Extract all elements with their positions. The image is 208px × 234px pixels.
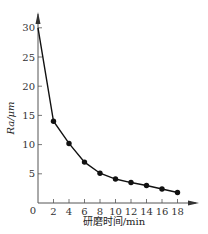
data-point [51, 119, 56, 124]
data-point [159, 186, 164, 191]
data-point [144, 183, 149, 188]
x-axis-ticks: 24681012141618 [50, 199, 184, 217]
line-chart: 51015202530 24681012141618 Ra/μm 研磨时间/mi… [0, 0, 208, 234]
data-point [82, 159, 87, 164]
data-point [66, 141, 71, 146]
y-tick-label: 10 [22, 139, 35, 150]
x-tick-label: 2 [50, 206, 56, 217]
data-point-markers [51, 119, 180, 196]
y-axis-arrow-icon [36, 12, 41, 24]
x-axis-title: 研磨时间/min [83, 215, 146, 227]
ra-series-line [38, 28, 178, 193]
y-tick-label: 5 [29, 168, 35, 179]
data-point [97, 171, 102, 176]
y-tick-label: 15 [22, 110, 35, 121]
y-axis-title: Ra/μm [5, 101, 16, 135]
data-point [113, 176, 118, 181]
y-tick-label: 30 [22, 22, 35, 33]
data-point [175, 190, 180, 195]
y-tick-label: 20 [22, 81, 35, 92]
origin-label: 0 [30, 205, 36, 216]
x-axis-arrow-icon [188, 201, 199, 206]
x-tick-label: 4 [66, 206, 72, 217]
data-point [128, 180, 133, 185]
axes [36, 12, 200, 206]
y-axis-ticks: 51015202530 [22, 22, 42, 179]
x-tick-label: 18 [171, 206, 184, 217]
y-tick-label: 25 [22, 52, 35, 63]
x-tick-label: 16 [156, 206, 169, 217]
